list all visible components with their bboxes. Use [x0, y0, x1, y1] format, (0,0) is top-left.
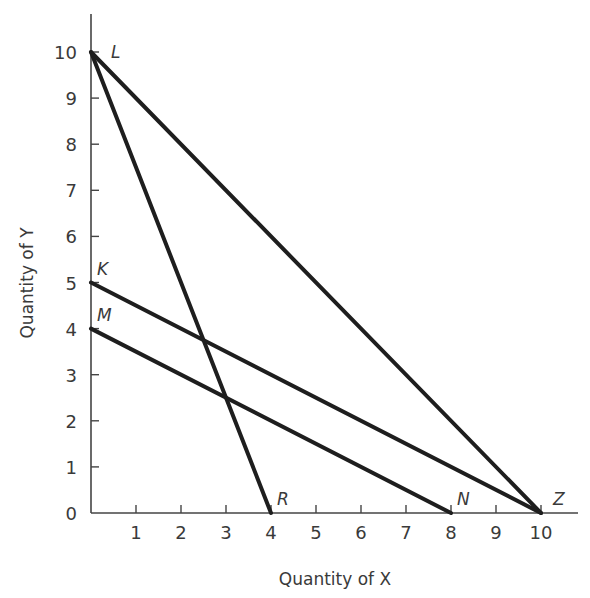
y-tick-label: 6 — [66, 226, 77, 247]
point-label-l: L — [111, 42, 120, 62]
x-tick-label: 9 — [490, 522, 501, 543]
x-tick-label: 8 — [445, 522, 456, 543]
x-tick-label: 6 — [355, 522, 366, 543]
x-ticks: 12345678910 — [130, 505, 552, 543]
point-labels: LKMRNZ — [97, 42, 565, 509]
y-tick-label: 4 — [66, 319, 77, 340]
x-tick-label: 4 — [265, 522, 276, 543]
y-tick-label: 0 — [66, 503, 77, 524]
x-tick-label: 7 — [400, 522, 411, 543]
y-tick-label: 10 — [54, 42, 77, 63]
y-tick-label: 7 — [66, 180, 77, 201]
x-tick-label: 3 — [220, 522, 231, 543]
budget-line-lr — [91, 52, 271, 513]
x-tick-label: 10 — [530, 522, 553, 543]
y-axis-title: Quantity of Y — [17, 227, 37, 339]
point-label-z: Z — [552, 489, 565, 509]
budget-line-chart: 012345678910 12345678910 LKMRNZ Quantity… — [0, 0, 590, 598]
x-tick-label: 2 — [175, 522, 186, 543]
x-tick-label: 1 — [130, 522, 141, 543]
point-label-n: N — [457, 489, 470, 509]
budget-line-kz — [91, 283, 541, 514]
y-tick-label: 1 — [66, 457, 77, 478]
x-tick-label: 5 — [310, 522, 321, 543]
x-axis-title: Quantity of X — [279, 569, 392, 589]
point-label-m: M — [97, 305, 112, 325]
point-label-r: R — [277, 489, 289, 509]
y-tick-label: 3 — [66, 365, 77, 386]
y-tick-label: 8 — [66, 134, 77, 155]
y-tick-label: 2 — [66, 411, 77, 432]
y-tick-label: 5 — [66, 273, 77, 294]
budget-lines — [91, 52, 541, 513]
axes — [91, 14, 578, 513]
point-label-k: K — [97, 259, 110, 279]
y-tick-label: 9 — [66, 88, 77, 109]
budget-line-mn — [91, 329, 451, 513]
